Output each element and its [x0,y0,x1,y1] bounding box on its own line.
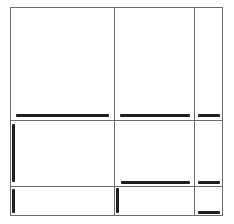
row-divider-1 [10,120,223,121]
cell-2-2-bottom-bar [198,211,220,214]
cell-2-0-left-bar [12,189,15,213]
column-divider-2 [194,7,195,216]
column-divider-1 [114,7,115,216]
row-divider-2 [10,186,223,187]
outer-border [10,7,223,216]
cell-1-2-bottom-bar [198,181,220,184]
cell-1-0-left-bar [12,124,15,182]
cell-2-1-left-bar [116,188,119,213]
cell-0-0-bottom-bar [16,114,109,117]
cell-0-2-bottom-bar [198,114,220,117]
cell-0-1-bottom-bar [120,114,190,117]
cell-1-1-bottom-bar [121,181,190,184]
